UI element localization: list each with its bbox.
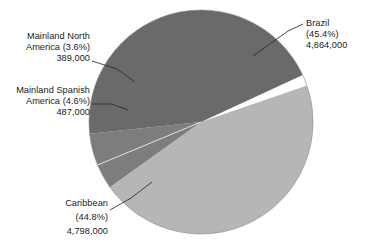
brazil-label-percent: (45.4%) — [306, 29, 339, 39]
pie-slices-group — [89, 10, 313, 234]
mainland-spanish-america-label-value: 487,000 — [56, 107, 90, 117]
caribbean-label-value: 4,798,000 — [67, 226, 108, 236]
mainland-spanish-america-label-percent: America (4.6%) — [26, 96, 90, 106]
mainland-spanish-america-label-name: Mainland Spanish — [16, 85, 90, 95]
caribbean-label-percent: (44.8%) — [75, 212, 108, 222]
caribbean-label-name: Caribbean — [65, 198, 108, 208]
mainland-north-america-label-value: 389,000 — [56, 53, 90, 63]
brazil-label-value: 4,864,000 — [306, 40, 347, 50]
pie-chart-svg: Brazil (45.4%) 4,864,000 Mainland North … — [0, 0, 369, 249]
mainland-north-america-label-percent: America (3.6%) — [26, 42, 90, 52]
brazil-label-name: Brazil — [306, 18, 329, 28]
pie-chart-figure: Brazil (45.4%) 4,864,000 Mainland North … — [0, 0, 369, 249]
mainland-north-america-label-name: Mainland North — [27, 31, 90, 41]
